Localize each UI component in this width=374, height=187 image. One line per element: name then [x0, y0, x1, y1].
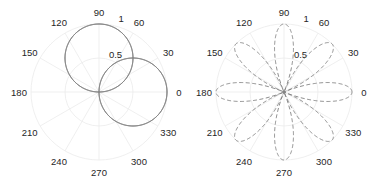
angle-tick-label: 30	[348, 47, 359, 58]
angle-tick-label: 180	[11, 87, 27, 98]
angle-tick-label: 210	[207, 127, 223, 138]
angle-tick-label: 240	[51, 156, 67, 167]
angle-tick-label: 0	[361, 87, 366, 98]
angle-tick-label: 60	[319, 17, 330, 28]
angle-tick-label: 330	[160, 127, 176, 138]
polar-axes-left: 03060901201501802102402703003300.51	[0, 0, 187, 187]
angle-tick-label: 120	[51, 17, 67, 28]
angle-tick-label: 150	[207, 47, 223, 58]
radial-tick-label: 1	[119, 13, 124, 24]
angle-tick-label: 60	[134, 17, 145, 28]
radial-tick-labels: 0.51	[109, 13, 124, 60]
radial-tick-labels: 0.51	[294, 13, 309, 60]
angle-tick-label: 330	[345, 127, 361, 138]
polar-plot-right: 03060901201501802102402703003300.51	[187, 0, 374, 187]
radial-tick-label: 0.5	[109, 49, 122, 60]
angle-tick-label: 90	[94, 7, 105, 18]
angle-tick-label: 210	[22, 127, 38, 138]
radial-tick-label: 1	[304, 13, 309, 24]
angle-tick-label: 270	[91, 167, 107, 178]
angle-tick-label: 300	[316, 156, 332, 167]
angle-tick-label: 120	[236, 17, 252, 28]
angle-tick-label: 0	[176, 87, 181, 98]
polar-axes-right: 03060901201501802102402703003300.51	[187, 0, 374, 187]
angle-tick-label: 180	[196, 87, 212, 98]
polar-plot-left: 03060901201501802102402703003300.51	[0, 0, 187, 187]
angle-tick-label: 240	[236, 156, 252, 167]
angle-tick-label: 90	[279, 7, 290, 18]
angle-tick-label: 270	[276, 167, 292, 178]
angle-tick-label: 30	[163, 47, 174, 58]
angle-tick-label: 300	[131, 156, 147, 167]
angle-tick-label: 150	[22, 47, 38, 58]
